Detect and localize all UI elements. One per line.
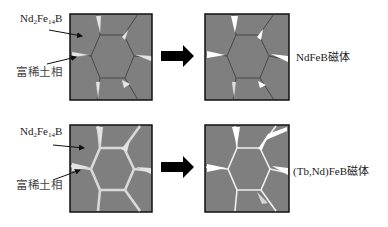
- grain-structure-top-before: [70, 14, 152, 100]
- process-arrow-bottom: [161, 156, 194, 178]
- grain-structure-bottom-after: [205, 125, 289, 212]
- label-result-bottom: (Tb,Nd)FeB磁体: [293, 166, 369, 177]
- microstructure-diagram: [0, 0, 388, 227]
- grain-structure-top-after: [205, 14, 289, 100]
- label-main-phase-top: Nd2Fe14B: [20, 13, 62, 24]
- label-result-top: NdFeB磁体: [296, 52, 350, 63]
- label-rich-phase-bottom: 富稀土相: [16, 180, 62, 192]
- grain-structure-bottom-before: [70, 125, 152, 212]
- label-main-phase-bottom: Nd2Fe14B: [20, 126, 62, 137]
- process-arrow-top: [161, 45, 194, 67]
- label-rich-phase-top: 富稀土相: [16, 67, 62, 79]
